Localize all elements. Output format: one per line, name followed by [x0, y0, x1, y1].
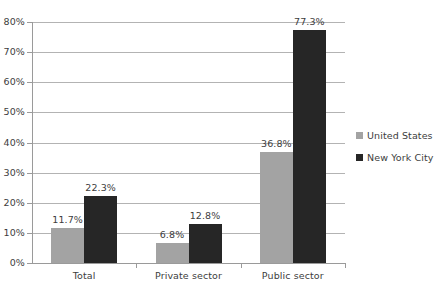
bar-public-sector-united-states — [260, 152, 293, 263]
legend-swatch-new-york-city — [356, 154, 363, 161]
y-tick-mark — [27, 173, 32, 174]
bar-public-sector-new-york-city — [293, 30, 326, 263]
y-axis-label-80: 80% — [4, 16, 25, 27]
y-axis-label-20: 20% — [4, 197, 25, 208]
bar-value-label: 12.8% — [182, 210, 229, 221]
x-axis-label-total: Total — [32, 270, 136, 281]
y-tick-mark — [27, 233, 32, 234]
x-axis-separator — [136, 263, 137, 268]
y-tick-mark — [27, 263, 32, 264]
y-axis-line — [32, 22, 33, 264]
bar-private-sector-new-york-city — [189, 224, 222, 263]
y-axis-label-10: 10% — [4, 227, 25, 238]
y-axis-tick-labels: 0%10%20%30%40%50%60%70%80% — [0, 0, 25, 295]
bar-total-new-york-city — [84, 196, 117, 263]
legend-label: New York City — [367, 152, 433, 163]
y-tick-mark — [27, 143, 32, 144]
x-axis-separator — [241, 263, 242, 268]
legend-label: United States — [367, 130, 433, 141]
bar-value-label: 77.3% — [286, 16, 333, 27]
x-axis-label-private-sector: Private sector — [136, 270, 240, 281]
y-tick-mark — [27, 203, 32, 204]
y-axis-label-50: 50% — [4, 106, 25, 117]
y-axis-label-70: 70% — [4, 46, 25, 57]
bar-private-sector-united-states — [156, 243, 189, 263]
x-axis-line — [32, 263, 346, 264]
bar-chart: 0%10%20%30%40%50%60%70%80% 11.7%22.3%Tot… — [0, 0, 434, 295]
chart-legend: United StatesNew York City — [356, 130, 434, 174]
y-axis-label-40: 40% — [4, 137, 25, 148]
y-tick-mark — [27, 52, 32, 53]
legend-item-new-york-city[interactable]: New York City — [356, 152, 434, 163]
legend-item-united-states[interactable]: United States — [356, 130, 434, 141]
y-axis-label-60: 60% — [4, 76, 25, 87]
y-tick-mark — [27, 22, 32, 23]
y-tick-mark — [27, 82, 32, 83]
bar-value-label: 22.3% — [77, 182, 124, 193]
y-tick-mark — [27, 112, 32, 113]
y-axis-label-30: 30% — [4, 167, 25, 178]
x-axis-separator — [345, 263, 346, 268]
bar-total-united-states — [51, 228, 84, 263]
legend-swatch-united-states — [356, 132, 363, 139]
x-axis-label-public-sector: Public sector — [241, 270, 345, 281]
y-axis-label-0: 0% — [10, 257, 25, 268]
